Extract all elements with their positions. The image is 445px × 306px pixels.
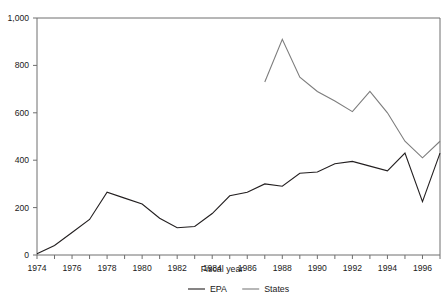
y-tick-label: 0 (24, 250, 29, 260)
x-tick-label: 1974 (27, 263, 46, 273)
chart-container: 02004006008001,000 197419761978198019821… (0, 0, 445, 306)
x-axis-title: Fiscal year (201, 264, 244, 274)
y-tick-label: 600 (15, 108, 30, 118)
x-tick-label: 1996 (413, 263, 432, 273)
y-tick-label: 1,000 (7, 13, 29, 23)
line-chart: 02004006008001,000 197419761978198019821… (0, 0, 445, 306)
y-axis-tick-group: 02004006008001,000 (7, 13, 37, 260)
y-tick-label: 200 (15, 203, 30, 213)
series-group (37, 39, 440, 253)
x-tick-label: 1990 (308, 263, 327, 273)
x-tick-label: 1988 (273, 263, 292, 273)
x-tick-label: 1978 (98, 263, 117, 273)
legend-label-epa: EPA (210, 284, 227, 294)
y-tick-label: 800 (15, 60, 30, 70)
chart-legend: EPAStates (188, 284, 290, 294)
x-tick-label: 1994 (378, 263, 397, 273)
x-tick-label: 1980 (133, 263, 152, 273)
legend-label-states: States (264, 284, 290, 294)
series-line-states (265, 39, 440, 158)
series-line-epa (37, 153, 440, 254)
x-tick-label: 1982 (168, 263, 187, 273)
x-tick-label: 1976 (62, 263, 81, 273)
y-tick-label: 400 (15, 155, 30, 165)
x-tick-label: 1992 (343, 263, 362, 273)
